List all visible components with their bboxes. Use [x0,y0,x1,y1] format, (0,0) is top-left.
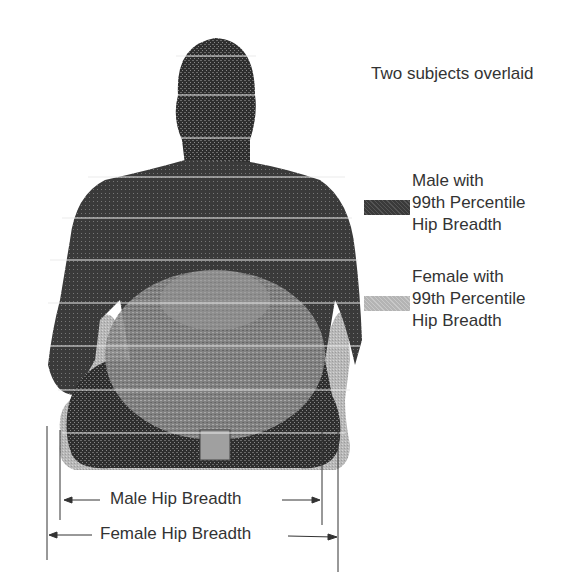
legend-male-line1: Male with [412,170,484,192]
female-swatch [364,296,410,311]
female-hip-breadth-label: Female Hip Breadth [96,524,255,544]
legend-female-line1: Female with [412,266,504,288]
legend-male-line2: 99th Percentile [412,192,525,214]
male-hip-breadth-label: Male Hip Breadth [106,489,245,509]
legend-female-line3: Hip Breadth [412,310,502,332]
legend-male-line3: Hip Breadth [412,214,502,236]
legend-female-line2: 99th Percentile [412,288,525,310]
figure-title: Two subjects overlaid [371,64,534,84]
male-swatch [364,200,410,215]
